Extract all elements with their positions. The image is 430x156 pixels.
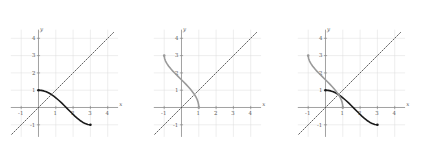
svg-text:1: 1 (175, 87, 178, 93)
axis-lines (154, 30, 261, 137)
svg-text:1: 1 (340, 110, 343, 116)
svg-text:1: 1 (32, 87, 35, 93)
x-axis-label: x (263, 101, 266, 107)
plot-panel-3: -11234-11234xy (287, 0, 430, 156)
svg-text:2: 2 (32, 70, 35, 76)
endpoint-marker (376, 123, 379, 126)
series-identity-line (155, 31, 258, 134)
svg-text:3: 3 (175, 53, 179, 59)
y-axis-label: y (182, 26, 187, 33)
svg-text:3: 3 (319, 53, 323, 59)
svg-text:-1: -1 (305, 110, 310, 116)
svg-text:-1: -1 (173, 122, 178, 128)
svg-text:4: 4 (175, 35, 179, 41)
plot-svg-2: -11234-11234xy (143, 0, 286, 156)
grid-lines (154, 30, 261, 137)
x-axis-label: x (119, 101, 122, 107)
series-identity-line (298, 31, 401, 134)
svg-text:4: 4 (319, 35, 323, 41)
plot-panel-2: -11234-11234xy (143, 0, 286, 156)
svg-text:1: 1 (319, 87, 322, 93)
y-axis-label: y (39, 26, 44, 33)
svg-text:-1: -1 (317, 122, 322, 128)
svg-text:1: 1 (197, 110, 200, 116)
svg-text:-1: -1 (30, 122, 35, 128)
svg-text:-1: -1 (18, 110, 23, 116)
figure-three-panel: -11234-11234xy -11234-11234xy -11234-112… (0, 0, 430, 156)
endpoint-marker (341, 106, 344, 109)
plot-svg-1: -11234-11234xy (0, 0, 143, 156)
svg-text:3: 3 (32, 53, 36, 59)
endpoint-marker (198, 106, 201, 109)
axis-lines (297, 30, 404, 137)
svg-text:3: 3 (232, 110, 236, 116)
svg-text:4: 4 (249, 110, 253, 116)
endpoint-marker (37, 89, 40, 92)
endpoint-marker (307, 54, 310, 57)
svg-text:3: 3 (88, 110, 92, 116)
svg-text:-1: -1 (161, 110, 166, 116)
grid-lines (11, 30, 118, 137)
svg-text:4: 4 (392, 110, 396, 116)
plot-svg-3: -11234-11234xy (287, 0, 430, 156)
grid-lines (297, 30, 404, 137)
x-axis-label: x (406, 101, 409, 107)
endpoint-marker (324, 89, 327, 92)
y-axis-label: y (326, 26, 331, 33)
svg-text:4: 4 (32, 35, 36, 41)
svg-text:4: 4 (105, 110, 109, 116)
svg-text:1: 1 (54, 110, 57, 116)
endpoint-marker (89, 123, 92, 126)
endpoint-marker (163, 54, 166, 57)
plot-panel-1: -11234-11234xy (0, 0, 143, 156)
svg-text:2: 2 (214, 110, 217, 116)
axis-lines (11, 30, 118, 137)
svg-text:3: 3 (375, 110, 379, 116)
series-identity-line (12, 31, 115, 134)
